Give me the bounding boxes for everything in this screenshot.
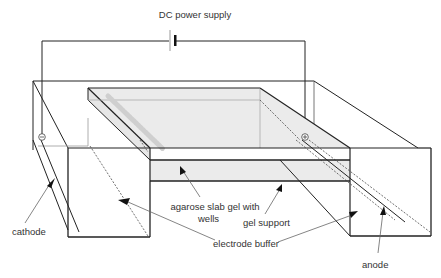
gel-support-label: gel support: [243, 217, 290, 228]
cathode-label: cathode: [12, 226, 46, 237]
gel-label-line2: wells: [198, 213, 219, 224]
buffer-level-line: [90, 146, 148, 236]
gel-label-line1: agarose slab gel with: [160, 201, 270, 212]
cathode-terminal-icon: [39, 134, 46, 141]
anode-label: anode: [362, 259, 388, 270]
electrophoresis-diagram: [0, 0, 441, 278]
electrode-buffer-label: electrode buffer: [213, 238, 279, 249]
battery-icon: [170, 30, 177, 51]
cathode-electrode: [33, 140, 79, 232]
power-supply-label: DC power supply: [150, 9, 240, 20]
agarose-gel-slab: [88, 88, 350, 181]
anode-terminal-icon: [302, 134, 309, 141]
anode-electrode: [296, 140, 430, 232]
